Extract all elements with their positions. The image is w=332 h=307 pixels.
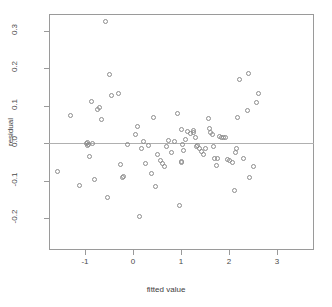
- x-axis-tick: [229, 250, 230, 255]
- x-axis-tick: [181, 250, 182, 255]
- x-axis-tick-label: 1: [171, 257, 191, 266]
- data-point: [137, 214, 142, 219]
- data-point: [97, 105, 102, 110]
- data-point: [180, 142, 185, 147]
- data-point: [109, 93, 114, 98]
- x-axis-tick-label: 0: [123, 257, 143, 266]
- data-point: [175, 111, 180, 116]
- data-point: [177, 203, 182, 208]
- x-axis-tick-label: 3: [267, 257, 287, 266]
- y-axis-tick-label: -0.2: [10, 205, 19, 229]
- data-point: [193, 135, 198, 140]
- data-point: [183, 137, 188, 142]
- data-point: [92, 177, 97, 182]
- y-axis-tick-label: 0.0: [10, 130, 19, 154]
- data-point: [55, 169, 60, 174]
- data-point: [162, 164, 167, 169]
- x-axis-label: fitted value: [0, 285, 332, 294]
- data-point: [230, 160, 235, 165]
- x-axis-tick: [85, 250, 86, 255]
- data-point: [121, 174, 126, 179]
- data-point: [251, 164, 256, 169]
- y-axis-tick-label: -0.1: [10, 167, 19, 191]
- data-point: [164, 144, 169, 149]
- data-point: [232, 188, 237, 193]
- data-point: [149, 171, 154, 176]
- data-point: [133, 132, 138, 137]
- data-point: [234, 146, 239, 151]
- data-point: [181, 148, 186, 153]
- data-point: [146, 143, 151, 148]
- data-point: [223, 135, 228, 140]
- data-point: [233, 150, 238, 155]
- data-point: [151, 115, 156, 120]
- data-point: [210, 132, 215, 137]
- data-point: [68, 113, 73, 118]
- data-point: [211, 144, 216, 149]
- y-axis-tick: [44, 31, 49, 32]
- y-axis-tick-label: 0.2: [10, 55, 19, 79]
- data-point: [135, 124, 140, 129]
- data-point: [143, 161, 148, 166]
- data-point: [254, 100, 259, 105]
- data-point: [125, 142, 130, 147]
- data-point: [99, 117, 104, 122]
- data-point: [201, 152, 206, 157]
- data-point: [166, 138, 171, 143]
- data-point: [105, 195, 110, 200]
- data-point: [116, 91, 121, 96]
- data-point: [235, 115, 240, 120]
- data-point: [141, 139, 146, 144]
- y-axis-tick: [44, 106, 49, 107]
- data-point: [245, 108, 250, 113]
- data-point: [241, 156, 246, 161]
- x-axis-tick-label: 2: [219, 257, 239, 266]
- y-axis-tick: [44, 68, 49, 69]
- y-axis-tick-label: 0.1: [10, 92, 19, 116]
- data-point: [89, 99, 94, 104]
- data-point: [179, 160, 184, 165]
- y-axis-tick-label: 0.3: [10, 17, 19, 41]
- data-point: [77, 183, 82, 188]
- data-point: [155, 152, 160, 157]
- data-point: [179, 127, 184, 132]
- data-point: [118, 162, 123, 167]
- data-point: [153, 184, 158, 189]
- data-point: [215, 156, 220, 161]
- data-point: [87, 154, 92, 159]
- data-point: [172, 139, 177, 144]
- data-point: [169, 150, 174, 155]
- scatter-points-layer: [49, 14, 314, 250]
- y-axis-tick: [44, 143, 49, 144]
- x-axis-tick: [277, 250, 278, 255]
- data-point: [191, 130, 196, 135]
- data-point: [214, 163, 219, 168]
- x-axis-tick-label: -1: [75, 257, 95, 266]
- data-point: [107, 72, 112, 77]
- data-point: [237, 77, 242, 82]
- data-point: [206, 116, 211, 121]
- x-axis-tick: [133, 250, 134, 255]
- data-point: [139, 146, 144, 151]
- data-point: [256, 91, 261, 96]
- data-point: [103, 19, 108, 24]
- y-axis-tick: [44, 218, 49, 219]
- data-point: [246, 71, 251, 76]
- data-point: [247, 175, 252, 180]
- residual-plot: residual fitted value -0.2-0.10.00.10.20…: [0, 0, 332, 307]
- data-point: [90, 141, 95, 146]
- data-point: [203, 146, 208, 151]
- y-axis-tick: [44, 181, 49, 182]
